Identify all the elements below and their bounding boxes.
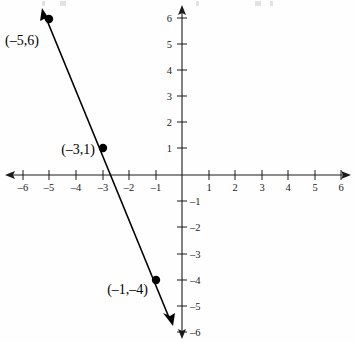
x-tick-label--5: –5 [43,182,55,193]
point-label-neg5-6: (–5,6) [5,33,39,49]
y-axis-tick-labels-negative: –1 –2 –3 –4 –5 –6 [189,196,201,338]
data-point-dot-3 [152,276,160,284]
y-tick-label-1: 1 [167,143,172,154]
y-tick-label-4: 4 [167,65,173,76]
data-point-dot-1 [45,15,53,23]
point-label-neg3-1: (–3,1) [61,142,95,158]
x-tick-label-5: 5 [312,182,317,193]
x-tick-label--6: –6 [17,182,29,193]
y-axis-tick-labels-positive: 6 5 4 3 2 1 [167,13,173,154]
y-tick-label--5: –5 [189,301,201,312]
y-tick-label-3: 3 [167,91,172,102]
x-axis-tick-labels: –6 –5 –4 –3 –2 –1 1 2 3 4 5 6 [17,182,344,193]
y-tick-label--2: –2 [189,222,201,233]
x-tick-label--4: –4 [70,182,82,193]
x-tick-label--3: –3 [97,182,109,193]
x-tick-label-4: 4 [285,182,291,193]
x-tick-label-2: 2 [232,182,237,193]
y-tick-label--4: –4 [189,275,201,286]
line-bottom-arrow-icon [163,313,175,326]
data-point-dot-2 [99,144,107,152]
y-tick-label-6: 6 [167,13,172,24]
x-tick-label-3: 3 [259,182,264,193]
plotted-line [44,13,170,320]
y-tick-label--1: –1 [189,196,201,207]
x-tick-label--1: –1 [150,182,162,193]
y-tick-label--3: –3 [189,249,201,260]
point-labels-group: (–5,6) (–3,1) (–1,–4) [5,33,148,298]
point-label-neg1-neg4: (–1,–4) [107,282,148,298]
x-tick-label--2: –2 [123,182,135,193]
y-tick-label-2: 2 [167,117,172,128]
graph-canvas: –6 –5 –4 –3 –2 –1 1 2 3 4 5 6 6 5 4 3 2 … [0,0,355,342]
axes-group [5,5,351,339]
x-tick-label-1: 1 [206,182,211,193]
coordinate-plane-figure: –6 –5 –4 –3 –2 –1 1 2 3 4 5 6 6 5 4 3 2 … [0,0,355,342]
x-tick-label-6: 6 [338,182,343,193]
y-tick-label-5: 5 [167,39,172,50]
y-tick-label--6: –6 [189,327,201,338]
